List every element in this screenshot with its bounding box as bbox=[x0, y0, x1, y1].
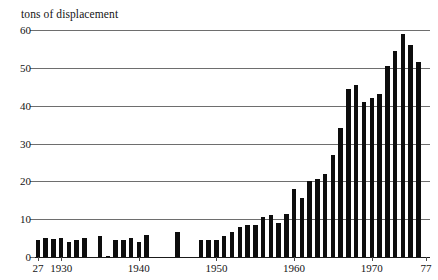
bar-1929 bbox=[51, 239, 56, 257]
x-tick-mark-1960 bbox=[294, 257, 295, 261]
x-tick-label-77: 77 bbox=[421, 262, 432, 274]
x-tick-mark-1950 bbox=[216, 257, 217, 261]
x-axis: 271930194019501960197077 bbox=[34, 257, 430, 280]
chart-title: tons of displacement bbox=[21, 8, 118, 21]
bar-1959 bbox=[284, 214, 289, 258]
y-tick-label-50: 50 bbox=[20, 62, 31, 73]
y-tick-label-10: 10 bbox=[20, 214, 31, 225]
bar-1954 bbox=[245, 225, 250, 257]
bar-1945 bbox=[175, 232, 180, 257]
bar-1965 bbox=[331, 155, 336, 257]
x-tick-label-1940: 1940 bbox=[128, 262, 150, 274]
y-tick-label-30: 30 bbox=[20, 138, 31, 149]
bar-1964 bbox=[323, 174, 328, 257]
bar-1956 bbox=[261, 217, 266, 257]
bar-1971 bbox=[377, 94, 382, 257]
x-tick-label-1930: 1930 bbox=[50, 262, 72, 274]
bar-1973 bbox=[393, 51, 398, 257]
bar-1960 bbox=[292, 189, 297, 257]
bar-chart: tons of displacement 0102030405060 27193… bbox=[0, 0, 438, 280]
bar-1951 bbox=[222, 236, 227, 257]
bar-1930 bbox=[59, 238, 64, 257]
y-tick-label-20: 20 bbox=[20, 176, 31, 187]
bar-1963 bbox=[315, 179, 320, 257]
bar-1955 bbox=[253, 225, 258, 257]
x-tick-mark-27 bbox=[38, 257, 39, 261]
x-tick-label-1950: 1950 bbox=[205, 262, 227, 274]
x-tick-mark-1940 bbox=[139, 257, 140, 261]
plot-area: 0102030405060 bbox=[34, 30, 430, 257]
bar-1972 bbox=[385, 66, 390, 257]
bar-1969 bbox=[362, 102, 367, 257]
bar-1950 bbox=[214, 240, 219, 257]
bar-1976 bbox=[416, 62, 421, 257]
bar-1974 bbox=[401, 34, 406, 257]
x-tick-label-1960: 1960 bbox=[283, 262, 305, 274]
bar-1949 bbox=[206, 240, 211, 257]
y-tick-label-0: 0 bbox=[26, 252, 32, 263]
bar-1957 bbox=[269, 215, 274, 257]
bar-1961 bbox=[300, 198, 305, 257]
bar-1970 bbox=[370, 98, 375, 257]
bar-1935 bbox=[98, 236, 103, 257]
x-tick-mark-77 bbox=[426, 257, 427, 261]
bar-1967 bbox=[346, 89, 351, 257]
y-tick-label-60: 60 bbox=[20, 25, 31, 36]
x-tick-mark-1930 bbox=[61, 257, 62, 261]
bar-1938 bbox=[121, 240, 126, 257]
bar-1927 bbox=[36, 240, 41, 257]
bar-1933 bbox=[82, 238, 87, 257]
bar-1968 bbox=[354, 85, 359, 257]
bar-1928 bbox=[43, 238, 48, 257]
bar-1952 bbox=[230, 232, 235, 257]
bars-group bbox=[34, 30, 430, 257]
x-tick-label-1970: 1970 bbox=[361, 262, 383, 274]
bar-1932 bbox=[74, 240, 79, 257]
bar-1975 bbox=[408, 45, 413, 257]
x-tick-label-27: 27 bbox=[32, 262, 43, 274]
bar-1958 bbox=[276, 223, 281, 257]
bar-1948 bbox=[199, 240, 204, 257]
bar-1939 bbox=[129, 238, 134, 257]
bar-1966 bbox=[338, 128, 343, 257]
x-tick-mark-1970 bbox=[372, 257, 373, 261]
bar-1953 bbox=[238, 227, 243, 257]
bar-1941 bbox=[144, 235, 149, 257]
y-tick-label-40: 40 bbox=[20, 100, 31, 111]
bar-1940 bbox=[137, 242, 142, 257]
bar-1931 bbox=[67, 242, 72, 257]
bar-1962 bbox=[307, 181, 312, 257]
bar-1937 bbox=[113, 240, 118, 257]
